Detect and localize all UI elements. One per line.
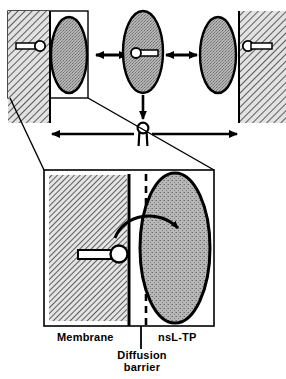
left-nsl-tp-ellipse	[51, 17, 87, 93]
center-bound-lipid	[131, 48, 158, 58]
diffusion-barrier-label-line2: barrier	[124, 361, 160, 373]
right-membrane-lipid	[243, 41, 272, 51]
free-lipid-molecule	[138, 123, 149, 146]
left-membrane-lipid	[16, 41, 45, 51]
diffusion-barrier-label: Diffusion barrier	[103, 349, 181, 373]
right-membrane-block	[239, 11, 286, 123]
right-nsl-tp-ellipse	[200, 17, 236, 93]
figure-canvas	[0, 0, 286, 379]
diffusion-barrier-label-line1: Diffusion	[117, 349, 166, 361]
detail-nsl-tp-ellipse	[140, 173, 210, 323]
nsl-tp-label: nsL-TP	[158, 331, 196, 343]
diagram-svg	[0, 0, 286, 379]
membrane-label: Membrane	[57, 331, 114, 343]
